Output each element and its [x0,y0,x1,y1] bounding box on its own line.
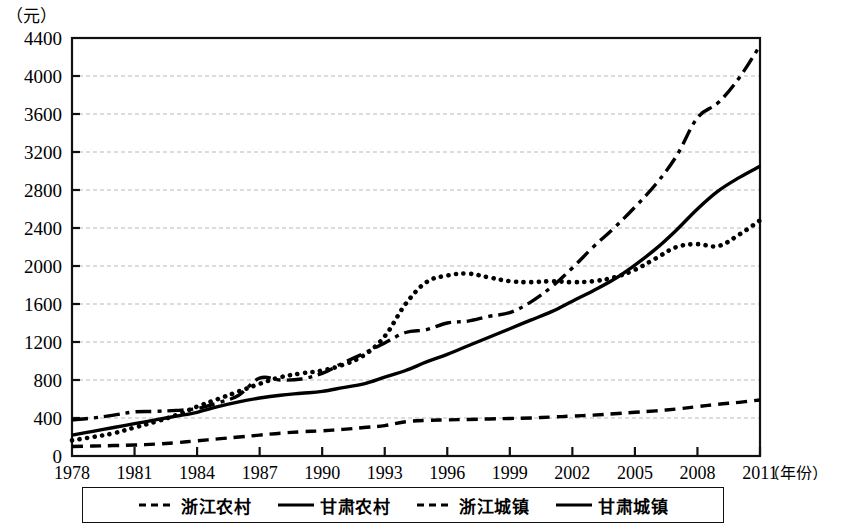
line-chart-canvas: 0400800120016002000240028003200360040004… [0,0,843,480]
legend-swatch-solid-icon [277,500,315,510]
legend-label-1: 甘肃农村 [320,493,390,518]
x-tick-label: 1999 [492,463,528,480]
legend-swatch-dashed-icon [416,500,454,510]
legend-swatch-solid-icon [555,500,593,510]
legend-label-2: 浙江城镇 [459,493,529,518]
y-tick-label: 1600 [24,294,62,315]
y-tick-label: 3600 [24,104,62,125]
x-tick-label: 1990 [304,463,340,480]
y-tick-label: 2800 [24,180,62,201]
series-line-浙江城镇 [72,46,760,420]
y-tick-label: 400 [34,408,63,429]
y-tick-label: 1200 [24,332,62,353]
x-tick-label: 2005 [617,463,653,480]
series-line-甘肃城镇 [72,166,760,435]
y-tick-label: 3200 [24,142,62,163]
chart-legend: 浙江农村 甘肃农村 浙江城镇 甘肃城镇 [82,487,724,523]
chart-figure: （元） 040080012001600200024002800320036004… [0,0,843,526]
x-tick-label: 1987 [242,463,278,480]
legend-label-0: 浙江农村 [181,493,251,518]
x-tick-label: 2002 [554,463,590,480]
x-tick-label: 1993 [367,463,403,480]
legend-item-3: 甘肃城镇 [555,493,668,518]
y-tick-label: 2000 [24,256,62,277]
legend-swatch-dashed-icon [138,500,176,510]
x-tick-label: 1984 [179,463,215,480]
x-tick-label: 1981 [117,463,153,480]
y-tick-label: 4400 [24,28,62,49]
y-tick-label: 800 [34,370,63,391]
legend-item-2: 浙江城镇 [416,493,529,518]
y-tick-label: 4000 [24,66,62,87]
legend-item-0: 浙江农村 [138,493,251,518]
x-tick-label: 2008 [679,463,715,480]
x-tick-label: 1996 [429,463,465,480]
x-tick-label: 1978 [54,463,90,480]
y-tick-label: 2400 [24,218,62,239]
x-axis-title: （年份） [764,465,828,480]
legend-item-1: 甘肃农村 [277,493,390,518]
legend-label-3: 甘肃城镇 [598,493,668,518]
series-line-甘肃农村 [72,400,760,447]
